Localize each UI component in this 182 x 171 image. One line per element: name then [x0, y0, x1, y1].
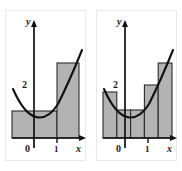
x-tick-label-1: 1: [54, 144, 59, 154]
x-axis-label: x: [166, 143, 172, 154]
y-tick-label-2: 2: [113, 79, 118, 90]
origin-label: 0: [25, 143, 30, 154]
rect-bar-3: [131, 110, 145, 138]
y-tick-label-2: 2: [22, 79, 27, 90]
x-axis-label: x: [75, 143, 81, 154]
panel-fine-approximation: y x 0 1 2: [91, 0, 182, 171]
y-axis-label: y: [25, 16, 31, 27]
x-tick-label-1: 1: [145, 144, 150, 154]
origin-label: 0: [116, 143, 121, 154]
riemann-sum-figure: y x 0 1 2 y x 0 1: [0, 0, 182, 171]
rect-bar-2: [117, 110, 131, 138]
y-axis-label: y: [116, 16, 122, 27]
panel-coarse-approximation: y x 0 1 2: [0, 0, 91, 171]
rect-bar-5: [158, 63, 172, 138]
rect-bar-4: [144, 85, 158, 138]
